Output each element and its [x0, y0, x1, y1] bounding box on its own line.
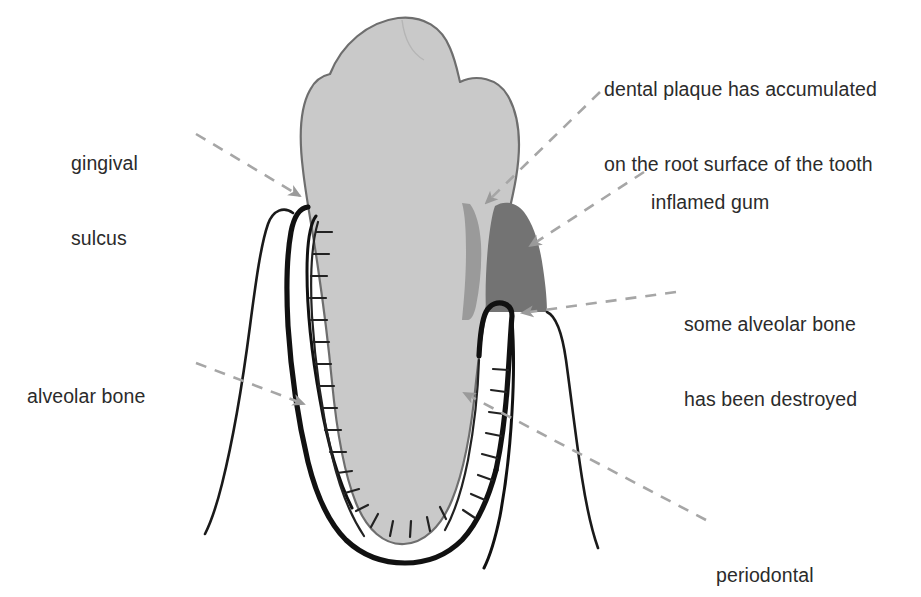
- label-gingival-sulcus: gingival sulcus: [71, 101, 138, 301]
- pdl-rung: [482, 454, 497, 458]
- alveolar-bone-right: [479, 303, 512, 470]
- pdl-rung: [478, 475, 492, 480]
- pdl-rung: [463, 510, 475, 518]
- label-alveolar-bone-line1: alveolar bone: [27, 384, 145, 409]
- leader-line-alveolar-bone: [196, 363, 304, 404]
- gingiva-right-outline: [547, 312, 598, 548]
- label-gingival-sulcus-line1: gingival: [71, 151, 138, 176]
- inflamed-gum-shape: [486, 203, 547, 312]
- label-inflamed-gum-line1: inflamed gum: [651, 190, 769, 215]
- pdl-rung: [491, 390, 506, 392]
- pdl-rung: [471, 494, 485, 500]
- pdl-rung: [493, 369, 508, 370]
- diagram-canvas: dental plaque has accumulated on the roo…: [0, 0, 921, 597]
- pdl-rung: [486, 433, 501, 436]
- inflamed-gum: [486, 203, 547, 312]
- label-bone-destroyed-line1: some alveolar bone: [684, 312, 857, 337]
- label-bone-destroyed: some alveolar bone has been destroyed: [684, 262, 857, 462]
- label-periodontal-ligament-line1: periodontal: [716, 563, 814, 588]
- label-bone-destroyed-line2: has been destroyed: [684, 387, 857, 412]
- label-alveolar-bone: alveolar bone: [27, 334, 145, 459]
- label-gingival-sulcus-line2: sulcus: [71, 226, 138, 251]
- leader-line-gingival-sulcus: [196, 134, 300, 196]
- label-dental-plaque-line1: dental plaque has accumulated: [604, 77, 877, 102]
- pdl-rung-apex: [410, 521, 411, 537]
- label-inflamed-gum: inflamed gum: [651, 140, 769, 265]
- label-periodontal-ligament: periodontal ligament: [716, 513, 814, 597]
